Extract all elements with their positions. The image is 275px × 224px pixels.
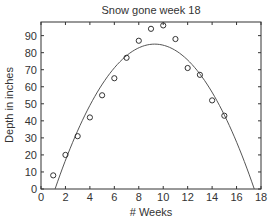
- x-tick-label: 14: [206, 191, 218, 203]
- data-point-marker: [148, 26, 153, 31]
- plot-area-frame: [41, 22, 261, 189]
- data-point-marker: [173, 36, 178, 41]
- data-point-marker: [112, 76, 117, 81]
- data-point-marker: [210, 98, 215, 103]
- y-axis-label: Depth in inches: [3, 67, 15, 143]
- y-tick-label: 40: [25, 115, 37, 127]
- x-tick-label: 4: [87, 191, 93, 203]
- fit-curve-line: [55, 44, 254, 189]
- y-tick-label: 20: [25, 149, 37, 161]
- x-tick-label: 0: [38, 191, 44, 203]
- y-tick-label: 60: [25, 81, 37, 93]
- x-tick-label: 16: [230, 191, 242, 203]
- x-tick-label: 10: [157, 191, 169, 203]
- y-tick-label: 90: [25, 30, 37, 42]
- x-tick-label: 6: [111, 191, 117, 203]
- data-point-marker: [87, 115, 92, 120]
- y-tick-label: 70: [25, 64, 37, 76]
- x-tick-label: 18: [255, 191, 267, 203]
- y-tick-label: 10: [25, 166, 37, 178]
- x-axis-label: # Weeks: [130, 206, 173, 218]
- y-axis-ticks: 0102030405060708090: [25, 30, 261, 195]
- data-point-markers: [51, 23, 227, 178]
- y-tick-label: 50: [25, 98, 37, 110]
- y-tick-label: 80: [25, 47, 37, 59]
- x-axis-ticks: 024681012141618: [38, 22, 267, 203]
- chart-title: Snow gone week 18: [101, 4, 200, 16]
- snow-depth-chart: Snow gone week 18 # Weeks Depth in inche…: [0, 0, 275, 224]
- x-tick-label: 12: [182, 191, 194, 203]
- data-point-marker: [75, 134, 80, 139]
- data-point-marker: [136, 38, 141, 43]
- x-tick-label: 2: [62, 191, 68, 203]
- data-point-marker: [185, 65, 190, 70]
- chart-container: Snow gone week 18 # Weeks Depth in inche…: [0, 0, 275, 224]
- data-point-marker: [100, 93, 105, 98]
- data-point-marker: [51, 173, 56, 178]
- x-tick-label: 8: [136, 191, 142, 203]
- y-tick-label: 0: [31, 183, 37, 195]
- y-tick-label: 30: [25, 132, 37, 144]
